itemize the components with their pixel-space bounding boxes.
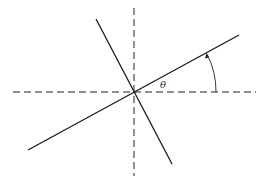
angle-arc [207, 54, 216, 92]
angle-label-theta: θ [160, 79, 166, 90]
rotation-diagram: θ [0, 0, 264, 187]
